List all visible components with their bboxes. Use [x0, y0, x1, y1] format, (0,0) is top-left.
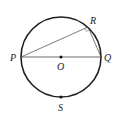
circle-diagram: P Q R O S: [0, 0, 117, 115]
center-point-o: [60, 56, 63, 59]
label-s: S: [58, 102, 63, 113]
chord-rq: [88, 27, 101, 57]
label-p: P: [9, 52, 16, 63]
label-q: Q: [104, 52, 112, 63]
label-r: R: [89, 15, 96, 26]
label-o: O: [57, 61, 64, 72]
point-s: [60, 96, 63, 99]
